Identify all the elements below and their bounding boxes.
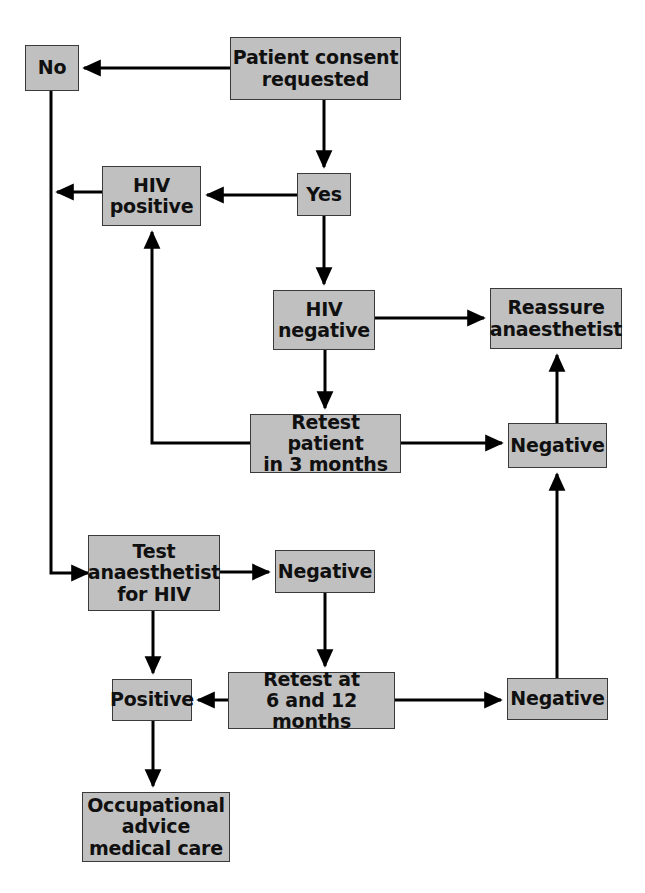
node-yes[interactable]: Yes (297, 173, 351, 216)
node-no[interactable]: No (25, 45, 79, 91)
node-label: Positive (110, 689, 194, 710)
node-label: Negative (510, 435, 604, 456)
node-label: Negative (278, 561, 372, 582)
node-negative_bot[interactable]: Negative (507, 678, 608, 720)
node-label: Reassure anaesthetist (490, 297, 622, 340)
node-label: Retest patient in 3 months (251, 412, 400, 476)
node-retest_3m[interactable]: Retest patient in 3 months (250, 414, 401, 473)
node-reassure[interactable]: Reassure anaesthetist (490, 288, 622, 349)
edge-retest3m-to-hivpositive (152, 232, 250, 443)
node-label: Test anaesthetist for HIV (88, 541, 220, 605)
flowchart-canvas: NoPatient consent requestedHIV positiveY… (0, 0, 645, 893)
node-hiv_negative[interactable]: HIV negative (273, 290, 375, 350)
node-label: Yes (306, 184, 342, 205)
node-test_anaes[interactable]: Test anaesthetist for HIV (88, 535, 220, 611)
node-retest_612[interactable]: Retest at 6 and 12 months (228, 672, 395, 729)
node-label: No (38, 57, 67, 78)
node-label: Patient consent requested (233, 47, 399, 90)
node-consent[interactable]: Patient consent requested (230, 37, 401, 100)
node-negative_mid[interactable]: Negative (508, 423, 607, 468)
node-label: Negative (510, 688, 604, 709)
node-label: HIV negative (278, 299, 370, 342)
edge-no-down-left-rail (51, 91, 88, 573)
node-occupational[interactable]: Occupational advice medical care (82, 792, 230, 862)
node-label: Retest at 6 and 12 months (229, 669, 394, 733)
node-positive[interactable]: Positive (112, 679, 192, 721)
node-negative_top2[interactable]: Negative (275, 550, 375, 593)
node-hiv_positive[interactable]: HIV positive (102, 166, 201, 226)
node-label: HIV positive (110, 175, 194, 218)
node-label: Occupational advice medical care (87, 795, 225, 859)
